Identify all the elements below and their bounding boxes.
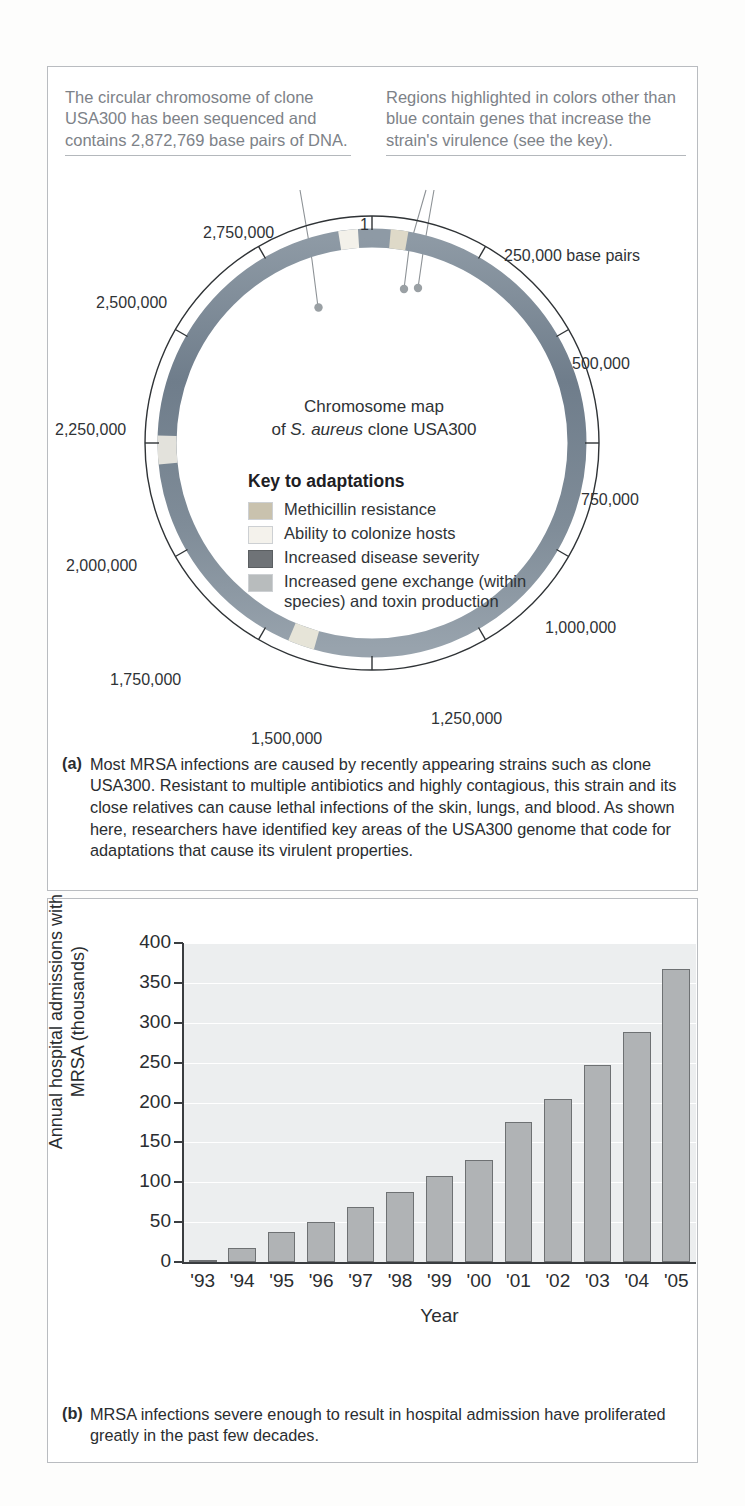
key-label-colonize: Ability to colonize hosts <box>284 523 456 543</box>
map-title-species: S. aureus <box>290 420 363 439</box>
ring-label-2750000: 2,750,000 <box>203 224 274 242</box>
key-label-gene-exchange: Increased gene exchange (within species)… <box>284 571 538 611</box>
y-tick-label-300: 300 <box>111 1011 171 1033</box>
ring-label-1250000: 1,250,000 <box>431 710 502 728</box>
ring-label-1500000: 1,500,000 <box>251 730 322 748</box>
y-tick-50 <box>174 1221 183 1223</box>
key-swatch-icon-methicillin <box>248 502 273 520</box>
bar-series <box>183 943 696 1262</box>
ring-label-500000: 500,000 <box>572 355 630 373</box>
y-tick-0 <box>174 1261 183 1263</box>
key-item-disease-severity: Increased disease severity <box>248 547 538 568</box>
caption-b: (b) MRSA infections severe enough to res… <box>62 1403 687 1447</box>
y-tick-label-350: 350 <box>111 971 171 993</box>
y-tick-label-50: 50 <box>111 1210 171 1232</box>
bar-01 <box>505 1122 533 1262</box>
key-label-severity: Increased disease severity <box>284 547 479 567</box>
key-item-gene-exchange: Increased gene exchange (within species)… <box>248 571 538 611</box>
caption-a: (a) Most MRSA infections are caused by r… <box>62 753 687 862</box>
y-tick-label-400: 400 <box>111 931 171 953</box>
key-swatch-icon-colonize <box>248 526 273 544</box>
bar-99 <box>426 1176 454 1262</box>
y-axis-title: Annual hospital admissions with MRSA (th… <box>46 892 89 1152</box>
y-tick-label-0: 0 <box>111 1250 171 1272</box>
y-tick-400 <box>174 942 183 944</box>
caption-a-marker: (a) <box>62 754 82 772</box>
key-swatch-icon-gene-exchange <box>248 574 273 592</box>
figure-page: The circular chromosome of clone USA300 … <box>0 0 745 1506</box>
key-swatch-icon-severity <box>248 550 273 568</box>
y-tick-300 <box>174 1022 183 1024</box>
ring-label-2250000: 2,250,000 <box>55 421 126 439</box>
x-tick-label-05: '05 <box>653 1270 699 1292</box>
y-tick-350 <box>174 982 183 984</box>
bar-98 <box>386 1192 414 1262</box>
y-tick-label-150: 150 <box>111 1130 171 1152</box>
ring-label-250000: 250,000 base pairs <box>504 247 640 265</box>
key-item-colonize-hosts: Ability to colonize hosts <box>248 523 538 544</box>
chart-plot-area <box>183 943 696 1262</box>
chromosome-map-title: Chromosome map of S. aureus clone USA300 <box>224 396 524 442</box>
bar-03 <box>584 1065 612 1262</box>
ring-label-2000000: 2,000,000 <box>66 557 137 575</box>
y-tick-label-250: 250 <box>111 1051 171 1073</box>
key-to-adaptations: Key to adaptations Methicillin resistanc… <box>248 471 538 614</box>
y-tick-100 <box>174 1181 183 1183</box>
bar-97 <box>347 1207 375 1262</box>
key-item-methicillin-resistance: Methicillin resistance <box>248 499 538 520</box>
caption-b-text: MRSA infections severe enough to result … <box>90 1404 687 1447</box>
y-tick-200 <box>174 1102 183 1104</box>
y-tick-label-200: 200 <box>111 1091 171 1113</box>
map-title-line2: of S. aureus clone USA300 <box>224 419 524 442</box>
caption-b-marker: (b) <box>62 1404 83 1422</box>
bar-94 <box>228 1248 256 1262</box>
y-tick-label-100: 100 <box>111 1170 171 1192</box>
ring-label-1000000: 1,000,000 <box>545 619 616 637</box>
ring-label-1: 1 <box>360 216 369 234</box>
x-axis-line <box>182 1262 696 1264</box>
ring-label-750000: 750,000 <box>581 491 639 509</box>
bar-00 <box>465 1160 493 1262</box>
ring-label-1750000: 1,750,000 <box>110 671 181 689</box>
caption-a-text: Most MRSA infections are caused by recen… <box>90 754 687 862</box>
ring-label-2500000: 2,500,000 <box>96 294 167 312</box>
map-title-line1: Chromosome map <box>224 396 524 419</box>
bar-96 <box>307 1222 335 1262</box>
bar-02 <box>544 1099 572 1262</box>
key-title: Key to adaptations <box>248 471 538 492</box>
bar-95 <box>268 1232 296 1262</box>
map-title-suffix: clone USA300 <box>363 420 476 439</box>
y-tick-250 <box>174 1062 183 1064</box>
bar-05 <box>662 969 690 1262</box>
x-axis-title: Year <box>183 1305 696 1327</box>
bar-04 <box>623 1032 651 1262</box>
key-label-methicillin: Methicillin resistance <box>284 499 436 519</box>
map-title-prefix: of <box>271 420 290 439</box>
y-tick-150 <box>174 1141 183 1143</box>
